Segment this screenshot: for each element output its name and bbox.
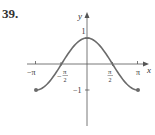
x-tick-label-half-pi: π 2 <box>108 68 114 83</box>
svg-text:π: π <box>63 68 67 76</box>
left-endpoint-dot <box>34 88 38 92</box>
y-axis-arrow-icon <box>85 12 90 18</box>
x-tick-label-neg-half-pi: − π 2 <box>57 68 68 83</box>
svg-text:π: π <box>108 68 112 76</box>
x-tick-label-pi: π <box>136 68 140 77</box>
y-tick-label-1: 1 <box>82 27 86 36</box>
y-tick-label-neg1: −1 <box>73 86 82 95</box>
svg-text:−: − <box>57 72 62 81</box>
y-axis-label: y <box>77 11 82 21</box>
right-endpoint-dot <box>136 88 140 92</box>
x-tick-label-neg-pi: −π <box>27 68 36 77</box>
cosine-graph: y x 1 −1 −π π − π 2 π 2 <box>0 0 155 135</box>
svg-text:2: 2 <box>109 77 112 83</box>
x-axis-label: x <box>146 65 151 75</box>
x-axis <box>27 62 149 67</box>
svg-text:2: 2 <box>64 77 67 83</box>
